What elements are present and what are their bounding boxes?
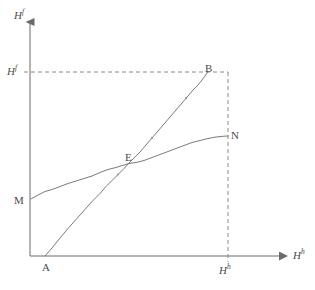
y-axis-title: Hf xyxy=(14,10,24,21)
curve-marker-dot xyxy=(151,137,153,139)
economics-diagram: Hf Hf Hh Hh A B E M N xyxy=(0,0,315,290)
curve-marker-dot xyxy=(117,174,119,176)
y-tick-label-base: H xyxy=(7,65,15,77)
point-label-e: E xyxy=(125,152,132,163)
x-tick-label-hh: Hh xyxy=(219,265,231,276)
y-axis-title-base: H xyxy=(14,9,22,21)
y-tick-label-hf: Hf xyxy=(7,66,17,77)
curve-ab xyxy=(45,72,208,257)
x-axis-title-sup: h xyxy=(301,247,305,256)
curve-marker-dot xyxy=(185,97,187,99)
x-axis-title: Hh xyxy=(293,250,305,261)
point-label-n: N xyxy=(231,130,239,141)
point-label-b: B xyxy=(205,63,212,74)
point-label-m: M xyxy=(14,195,24,206)
diagram-canvas xyxy=(0,0,315,290)
x-tick-label-sup: h xyxy=(227,262,231,271)
y-axis-title-sup: f xyxy=(22,7,24,16)
point-label-a: A xyxy=(42,262,50,273)
x-axis-title-base: H xyxy=(293,249,301,261)
x-tick-label-base: H xyxy=(219,264,227,276)
curve-mn xyxy=(31,136,228,199)
y-tick-label-sup: f xyxy=(15,63,17,72)
